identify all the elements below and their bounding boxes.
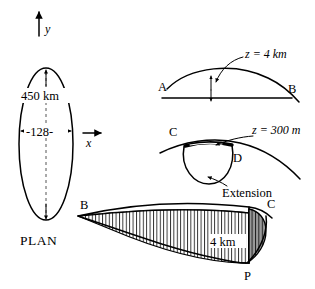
geological-diagram-svg: y 450 km --> -128- x PLAN <box>0 0 315 289</box>
arch-right-label: B <box>288 82 296 96</box>
arch-curve <box>167 68 299 102</box>
wedge-end-cap <box>247 209 266 263</box>
wedge-thickness-label: 4 km <box>210 235 236 249</box>
basin-depth-label: z = 300 m <box>251 123 301 137</box>
arch-depth-label: z = 4 km <box>244 47 287 61</box>
basin-right-label: D <box>233 151 242 165</box>
x-axis-label: x <box>85 136 92 150</box>
wedge-bottom-label: P <box>244 269 251 283</box>
basin-depression <box>183 145 232 184</box>
wedge-panel <box>78 204 272 263</box>
wedge-left-label: B <box>80 198 88 212</box>
y-axis-label: y <box>44 22 51 36</box>
wedge-right-label: C <box>267 197 275 211</box>
extension-label: Extension <box>222 186 273 200</box>
plan-vertical-dimension-label: 450 km <box>21 89 59 103</box>
plan-horizontal-dimension-label: -128- <box>26 125 53 139</box>
arch-panel <box>162 57 299 102</box>
basin-left-label: C <box>169 125 177 139</box>
figure-root: y 450 km --> -128- x PLAN <box>0 0 315 289</box>
plan-caption: PLAN <box>20 233 57 248</box>
basin-panel <box>160 136 300 186</box>
arch-left-label: A <box>158 80 167 94</box>
